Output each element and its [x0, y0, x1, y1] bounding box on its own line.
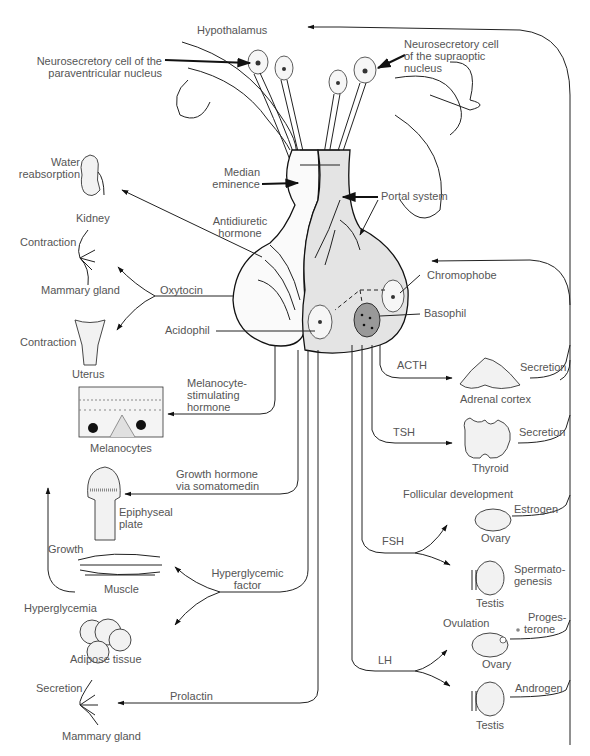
mammary-lower-label: Mammary gland	[62, 730, 141, 742]
uterus-shape	[75, 320, 105, 365]
growth-label: Growth	[48, 543, 83, 555]
adipose-label: Adipose tissue	[70, 653, 142, 665]
ovary-fsh-shape	[475, 509, 511, 531]
uterus-effect: Contraction	[20, 336, 76, 348]
mammary-upper-label: Mammary gland	[41, 284, 120, 296]
msh-line1: Melanocyte-	[187, 377, 247, 389]
spermato-line2: genesis	[514, 575, 552, 587]
testis-fsh-label: Testis	[476, 597, 504, 609]
antidiuretic-line2: hormone	[200, 227, 280, 239]
androgen-label: Androgen	[515, 682, 563, 694]
ovulation-label: Ovulation	[443, 617, 489, 629]
muscle-shape	[78, 554, 162, 575]
hyperglycemia-label: Hyperglycemia	[24, 602, 97, 614]
paraventricular-label-line1: Neurosecretory cell of the	[36, 55, 162, 67]
median-eminence-line1: Median	[200, 166, 260, 178]
supraoptic-label-line2: of the supraoptic	[404, 50, 485, 62]
fsh-label: FSH	[382, 535, 404, 547]
secretion-lower-label: Secretion	[36, 682, 82, 694]
epiphyseal-bone	[88, 467, 121, 540]
basophil-label: Basophil	[424, 307, 466, 319]
testis-lh-shape	[476, 682, 504, 716]
supraoptic-label-line1: Neurosecretory cell	[404, 38, 499, 50]
antidiuretic-line1: Antidiuretic	[200, 215, 280, 227]
uterus-label: Uterus	[72, 368, 104, 380]
chromophobe-label: Chromophobe	[427, 269, 497, 281]
testis-fsh-shape	[476, 561, 504, 595]
testis-lh-label: Testis	[476, 719, 504, 731]
tsh-label: TSH	[393, 426, 415, 438]
estrogen-label: Estrogen	[514, 503, 558, 515]
proges-line2: terone	[524, 623, 555, 635]
ovary-lh-shape	[472, 633, 508, 657]
proges-line1: Proges-	[528, 611, 567, 623]
epiphyseal-line2: plate	[119, 518, 143, 530]
mammary-lower-shape	[80, 680, 98, 725]
epiphyseal-line1: Epiphyseal	[119, 506, 173, 518]
mammary-upper-effect: Contraction	[20, 236, 76, 248]
adrenal-secretion-label: Secretion	[520, 361, 566, 373]
supraoptic-label-line3: nucleus	[404, 62, 442, 74]
paraventricular-label-line2: paraventricular nucleus	[36, 67, 162, 79]
oxytocin-label: Oxytocin	[160, 284, 203, 296]
mammary-upper-shape	[79, 230, 95, 285]
kidney-label: Kidney	[76, 212, 110, 224]
follicular-label: Follicular development	[403, 488, 513, 500]
prolactin-label: Prolactin	[170, 690, 213, 702]
thyroid-label: Thyroid	[472, 462, 509, 474]
ovary-lh-label: Ovary	[482, 658, 511, 670]
msh-line2: stimulating	[187, 389, 240, 401]
kidney-effect-line2: reabsorption	[10, 168, 80, 180]
adrenal-label: Adrenal cortex	[460, 393, 531, 405]
acth-label: ACTH	[397, 359, 427, 371]
acidophil-label: Acidophil	[165, 324, 210, 336]
gh-line2: via somatomedin	[176, 480, 259, 492]
ovary-fsh-label: Ovary	[481, 532, 510, 544]
melanocytes-label: Melanocytes	[90, 442, 152, 454]
portal-system-label: Portal system	[381, 190, 448, 202]
lh-label: LH	[378, 654, 392, 666]
thyroid-shape	[464, 418, 510, 458]
muscle-label: Muscle	[104, 583, 139, 595]
hyperglycemic-line2: factor	[205, 579, 290, 591]
gh-line1: Growth hormone	[176, 468, 258, 480]
adrenal-shape	[460, 358, 520, 389]
spermato-line1: Spermato-	[514, 563, 565, 575]
median-eminence-line2: eminence	[200, 178, 260, 190]
feedback-lines	[308, 27, 570, 745]
kidney-shape	[81, 155, 100, 196]
thyroid-secretion-label: Secretion	[519, 426, 565, 438]
msh-line3: hormone	[187, 401, 230, 413]
kidney-effect-line1: Water	[10, 156, 80, 168]
hyperglycemic-line1: Hyperglycemic	[205, 567, 290, 579]
hypothalamus-label: Hypothalamus	[197, 24, 267, 36]
